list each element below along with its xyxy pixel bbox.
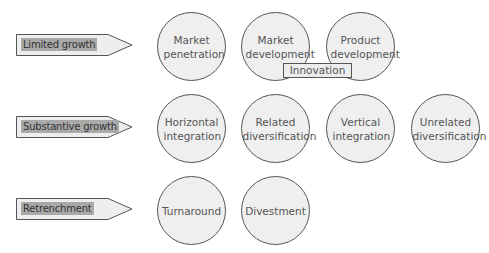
category-arrow-retrenchment: Retrenchment (16, 198, 133, 220)
category-label: Limited growth (21, 38, 97, 51)
strategy-circle-turnaround: Turnaround (157, 176, 226, 245)
category-label: Substantive growth (21, 120, 119, 133)
strategy-circle-market-penetration: Market penetration (157, 12, 226, 81)
strategy-circle-horizontal-integration: Horizontal integration (157, 94, 226, 163)
category-arrow-substantive-growth: Substantive growth (16, 116, 133, 138)
innovation-box: Innovation (283, 63, 352, 78)
category-arrow-limited-growth: Limited growth (16, 34, 133, 56)
strategy-circle-vertical-integration: Vertical integration (326, 94, 395, 163)
strategy-circle-divestment: Divestment (241, 176, 310, 245)
category-label: Retrenchment (21, 202, 94, 215)
strategy-circle-related-diversification: Related diversification (241, 94, 310, 163)
strategy-circle-unrelated-diversification: Unrelated diversification (411, 94, 480, 163)
